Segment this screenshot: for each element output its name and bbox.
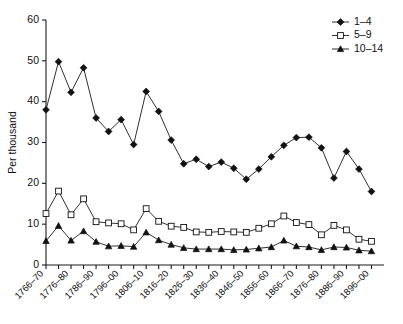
legend: 1–45–910–14	[332, 15, 383, 54]
data-point	[181, 225, 187, 231]
data-point	[168, 241, 174, 247]
series-10-14	[43, 223, 375, 254]
legend-marker-icon	[337, 19, 344, 26]
y-tick-label: 0	[33, 258, 39, 270]
data-point	[343, 148, 350, 155]
data-point	[68, 89, 75, 96]
line-chart: 0102030405060Per thousand1766–701776–801…	[0, 0, 403, 324]
y-tick-label: 10	[27, 217, 39, 229]
data-point	[205, 163, 212, 170]
data-point	[206, 229, 212, 235]
data-point	[55, 223, 61, 229]
series-1-4	[43, 58, 375, 195]
data-point	[155, 237, 161, 243]
data-point	[218, 159, 225, 166]
legend-item-10-14[interactable]: 10–14	[332, 42, 383, 54]
data-point	[130, 141, 137, 148]
data-point	[281, 237, 287, 243]
data-point	[180, 160, 187, 167]
data-point	[281, 213, 287, 219]
legend-label: 10–14	[354, 42, 383, 54]
data-point	[193, 229, 199, 235]
data-point	[306, 222, 312, 228]
data-point	[56, 188, 62, 194]
series-line	[46, 62, 371, 192]
data-point	[369, 238, 375, 244]
data-point	[143, 88, 150, 95]
data-point	[80, 64, 87, 71]
x-axis-ticks: 1766–701776–801786–901796–001806–101816–…	[13, 265, 372, 301]
legend-label: 1–4	[354, 15, 372, 27]
data-point	[344, 227, 350, 233]
data-point	[143, 206, 149, 212]
series-5-9	[43, 188, 374, 244]
data-point	[268, 244, 274, 250]
data-point	[268, 221, 274, 227]
data-point	[356, 236, 362, 242]
data-point	[293, 220, 299, 226]
y-tick-label: 20	[27, 176, 39, 188]
data-point	[156, 218, 162, 224]
y-tick-label: 40	[27, 94, 39, 106]
y-axis-title: Per thousand	[6, 111, 18, 174]
data-point	[368, 188, 375, 195]
data-point	[155, 108, 162, 115]
data-point	[43, 106, 50, 113]
legend-item-5-9[interactable]: 5–9	[332, 28, 372, 40]
data-point	[243, 229, 249, 235]
data-point	[55, 58, 62, 65]
data-point	[293, 134, 300, 141]
y-tick-label: 60	[27, 13, 39, 25]
legend-marker-icon	[338, 33, 344, 39]
data-point	[319, 232, 325, 238]
data-point	[68, 212, 74, 218]
data-point	[168, 223, 174, 229]
chart-container: 0102030405060Per thousand1766–701776–801…	[0, 0, 403, 324]
data-point	[256, 225, 262, 231]
y-tick-label: 30	[27, 135, 39, 147]
y-axis-title-group: Per thousand	[6, 111, 18, 174]
data-point	[356, 166, 363, 173]
y-axis-ticks: 0102030405060	[27, 13, 46, 270]
legend-label: 5–9	[354, 28, 372, 40]
data-point	[81, 196, 87, 202]
data-point	[43, 211, 49, 217]
data-point	[193, 156, 200, 163]
data-point	[231, 229, 237, 235]
data-point	[143, 229, 149, 235]
data-point	[131, 227, 137, 233]
data-point	[106, 220, 112, 226]
data-point	[93, 219, 99, 225]
data-point	[331, 222, 337, 228]
data-point	[118, 221, 124, 227]
data-point	[331, 175, 338, 182]
data-point	[80, 228, 86, 234]
data-point	[168, 137, 175, 144]
y-tick-label: 50	[27, 54, 39, 66]
legend-item-1-4[interactable]: 1–4	[332, 15, 372, 27]
data-point	[218, 229, 224, 235]
